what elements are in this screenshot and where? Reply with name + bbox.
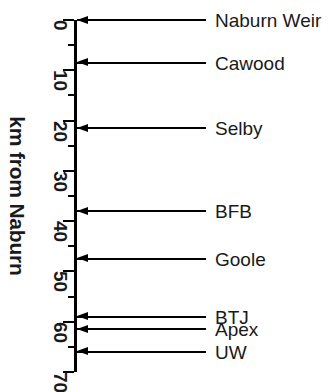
arrow-shaft — [77, 328, 206, 330]
axis-title: km from Naburn — [0, 0, 34, 392]
axis-tick-minor — [68, 195, 74, 197]
arrow-head-icon — [77, 16, 88, 24]
site-label: Naburn Weir — [215, 11, 321, 30]
arrow-head-icon — [77, 325, 88, 333]
site-label: UW — [215, 343, 247, 362]
arrow-shaft — [77, 62, 206, 64]
site-label: Selby — [215, 119, 263, 138]
arrow-head-icon — [77, 254, 88, 262]
arrow-head-icon — [77, 124, 88, 132]
axis-tick-minor — [68, 145, 74, 147]
axis-tick-minor — [68, 245, 74, 247]
arrow-shaft — [77, 258, 206, 260]
site-label: BFB — [215, 202, 252, 221]
site-label: Cawood — [215, 54, 285, 73]
axis-tick-minor — [68, 94, 74, 96]
axis-tick-minor — [68, 346, 74, 348]
arrow-shaft — [77, 316, 206, 318]
site-label: Goole — [215, 250, 266, 269]
arrow-head-icon — [77, 312, 88, 320]
arrow-shaft — [77, 127, 206, 129]
axis-tick-minor — [68, 296, 74, 298]
arrow-head-icon — [77, 207, 88, 215]
axis-tick-minor — [68, 44, 74, 46]
site-label: Apex — [215, 320, 258, 339]
arrow-shaft — [77, 19, 206, 21]
arrow-shaft — [77, 210, 206, 212]
arrow-head-icon — [77, 347, 88, 355]
arrow-head-icon — [77, 58, 88, 66]
arrow-shaft — [77, 351, 206, 353]
river-distance-diagram: km from Naburn 010203040506070 Naburn We… — [0, 0, 336, 392]
